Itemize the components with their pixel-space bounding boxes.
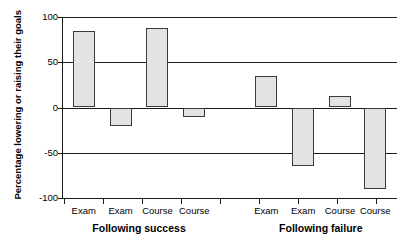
- bar-chart-figure: Percentage lowering or raising their goa…: [0, 0, 405, 246]
- gridline-100: [62, 17, 397, 18]
- bar-4: [183, 108, 205, 118]
- plot-area: [62, 17, 397, 198]
- group-label-2: Following failure: [251, 222, 391, 234]
- x-tick-label-8: Course: [345, 205, 405, 216]
- bar-8: [364, 108, 386, 189]
- x-tick-mark-9: [376, 198, 377, 204]
- y-tick-mark-50: [58, 62, 62, 63]
- y-tick-label--100: -100: [32, 193, 58, 203]
- y-axis-label: Percentage lowering or raising their goa…: [12, 10, 24, 200]
- y-tick-mark--100: [58, 198, 62, 199]
- x-tick-label-4: Course: [164, 205, 224, 216]
- y-tick-label--50: -50: [32, 148, 58, 158]
- x-tick-mark-5: [220, 198, 221, 204]
- y-tick-mark-100: [58, 17, 62, 18]
- bar-1: [73, 31, 95, 108]
- x-tick-mark-4: [181, 198, 182, 204]
- x-tick-mark-6: [259, 198, 260, 204]
- bar-5: [255, 76, 277, 108]
- bar-2: [110, 108, 132, 126]
- bar-3: [146, 28, 168, 108]
- y-tick-mark--50: [58, 153, 62, 154]
- x-tick-mark-8: [337, 198, 338, 204]
- x-axis-line: [62, 198, 397, 199]
- y-tick-mark-0: [58, 108, 62, 109]
- y-tick-label-100: 100: [32, 12, 58, 22]
- x-tick-mark-3: [142, 198, 143, 204]
- y-tick-label-50: 50: [32, 57, 58, 67]
- x-tick-mark-1: [64, 198, 65, 204]
- bar-6: [292, 108, 314, 167]
- bar-7: [329, 96, 351, 108]
- gridline-50: [62, 62, 397, 63]
- x-tick-mark-7: [298, 198, 299, 204]
- x-tick-mark-2: [103, 198, 104, 204]
- y-axis-tick-labels: 100500-50-100: [30, 0, 58, 210]
- y-tick-label-0: 0: [32, 103, 58, 113]
- group-label-1: Following success: [69, 222, 209, 234]
- gridline--50: [62, 153, 397, 154]
